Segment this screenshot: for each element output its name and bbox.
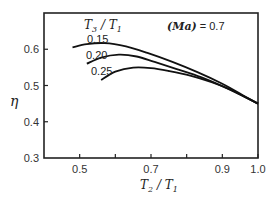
curve-label-0-20: 0.20 <box>86 49 107 61</box>
y-tick-label: 0.4 <box>24 116 39 128</box>
x-axis-ticks: 0.50.70.91.0 <box>72 154 266 175</box>
x-tick-label: 0.9 <box>215 163 230 175</box>
x-tick-label: 0.5 <box>72 163 87 175</box>
y-tick-label: 0.6 <box>24 43 39 55</box>
legend-title: T3 / T1 <box>84 18 122 34</box>
efficiency-chart: 0.50.70.91.0 0.30.40.50.6 T3 / T1 0.15 0… <box>0 0 275 202</box>
y-tick-label: 0.5 <box>24 80 39 92</box>
x-tick-label: 0.7 <box>143 163 158 175</box>
y-tick-label: 0.3 <box>24 152 39 164</box>
y-axis-label: η <box>10 93 19 109</box>
x-axis-label: T2 / T1 <box>140 178 178 194</box>
curve-label-0-25: 0.25 <box>91 65 112 77</box>
x-tick-label: 1.0 <box>250 163 265 175</box>
curve-0-25 <box>101 67 258 103</box>
curve-label-0-15: 0.15 <box>87 33 108 45</box>
mach-annotation: (Ma) = 0.7 <box>167 20 225 33</box>
